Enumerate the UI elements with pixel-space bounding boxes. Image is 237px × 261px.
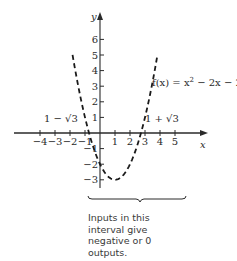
- function-label: f(x) = x2 − 2x − 2: [152, 76, 237, 88]
- interval-note: Inputs in this interval give negative or…: [88, 212, 178, 258]
- x-tick-label: 3: [142, 136, 148, 147]
- y-tick-label: −1: [83, 143, 98, 154]
- x-tick-label: −2: [63, 136, 78, 147]
- y-tick-label: −3: [83, 174, 98, 185]
- x-tick-label: 1: [112, 136, 118, 147]
- y-axis-arrow-icon: [97, 12, 103, 20]
- y-tick-label: 2: [92, 96, 98, 107]
- y-tick-label: −2: [83, 159, 98, 170]
- y-tick-label: 4: [92, 65, 98, 76]
- x-tick-label: 5: [172, 136, 178, 147]
- note-line: negative or 0: [88, 235, 178, 247]
- note-line: outputs.: [88, 247, 178, 259]
- y-tick-label: 6: [92, 34, 98, 45]
- x-tick-label: −3: [48, 136, 63, 147]
- interval-brace: [88, 196, 186, 202]
- function-label-suffix: − 2x − 2: [194, 77, 237, 88]
- y-tick-label: 5: [92, 50, 98, 61]
- x-axis-label: x: [200, 139, 206, 150]
- root-right-label: 1 + √3: [145, 113, 179, 124]
- y-ticks: 654321−1−2−3: [83, 34, 104, 185]
- x-tick-label: 4: [157, 136, 163, 147]
- note-line: interval give: [88, 224, 178, 236]
- axes: [14, 12, 208, 188]
- x-tick-label: 2: [127, 136, 133, 147]
- y-axis-label: y: [90, 11, 97, 22]
- y-tick-label: 1: [92, 112, 98, 123]
- function-label-prefix: f(x) = x: [152, 77, 190, 88]
- x-tick-label: −4: [33, 136, 48, 147]
- root-left-label: 1 − √3: [44, 113, 78, 124]
- x-axis-arrow-icon: [200, 130, 208, 136]
- y-tick-label: 3: [92, 81, 98, 92]
- note-line: Inputs in this: [88, 212, 178, 224]
